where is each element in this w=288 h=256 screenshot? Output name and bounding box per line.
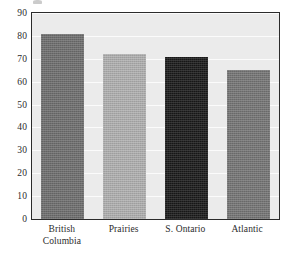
bar-chart-figure: 9080706050403020100 British ColumbiaPrai… bbox=[0, 0, 288, 256]
y-tick-label: 40 bbox=[17, 122, 27, 132]
x-tick-label: S. Ontario bbox=[165, 224, 205, 236]
y-tick-label: 60 bbox=[17, 77, 27, 87]
y-tick-label: 20 bbox=[17, 168, 27, 178]
plot-area bbox=[31, 12, 280, 220]
y-tick-label: 0 bbox=[22, 214, 27, 224]
x-tick-label: Atlantic bbox=[231, 224, 262, 236]
y-tick-label: 30 bbox=[17, 145, 27, 155]
x-axis: British ColumbiaPrairiesS. OntarioAtlant… bbox=[31, 224, 280, 254]
y-tick-label: 70 bbox=[17, 54, 27, 64]
scan-artifact-mark bbox=[33, 0, 42, 4]
y-tick-label: 90 bbox=[17, 8, 27, 18]
x-tick-label: Prairies bbox=[109, 224, 139, 236]
bar bbox=[41, 34, 84, 219]
y-axis: 9080706050403020100 bbox=[0, 12, 27, 220]
bar-series bbox=[32, 13, 279, 219]
bar bbox=[227, 70, 270, 219]
bar-texture bbox=[103, 54, 146, 219]
bar-texture bbox=[227, 70, 270, 219]
y-tick-label: 10 bbox=[17, 191, 27, 201]
bar-texture bbox=[165, 57, 208, 220]
bar-texture bbox=[41, 34, 84, 219]
y-tick-label: 80 bbox=[17, 31, 27, 41]
bar bbox=[103, 54, 146, 219]
y-tick-label: 50 bbox=[17, 100, 27, 110]
x-tick-label: British Columbia bbox=[43, 224, 81, 247]
bar bbox=[165, 57, 208, 220]
